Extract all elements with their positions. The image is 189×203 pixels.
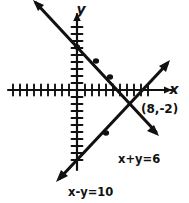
y-axis-label: y [76, 1, 86, 17]
line-1-stroke [36, 3, 156, 132]
intersection-point-label: (8,-2) [141, 102, 178, 116]
line-1-point-marker [93, 58, 99, 63]
line-1-point-marker [107, 74, 113, 79]
coordinate-graph: y x (8,-2) x+y=6 x-y=10 [0, 0, 189, 203]
line-2-equation-label: x-y=10 [68, 185, 113, 199]
graph-figure: y x (8,-2) x+y=6 x-y=10 [0, 0, 189, 203]
line-2-point-marker [103, 130, 109, 135]
line-1-point-marker [74, 44, 80, 49]
line-1-arrow-lower-right-icon [147, 125, 159, 136]
line-1-equation-label: x+y=6 [118, 152, 160, 166]
x-axis-label: x [168, 81, 179, 97]
